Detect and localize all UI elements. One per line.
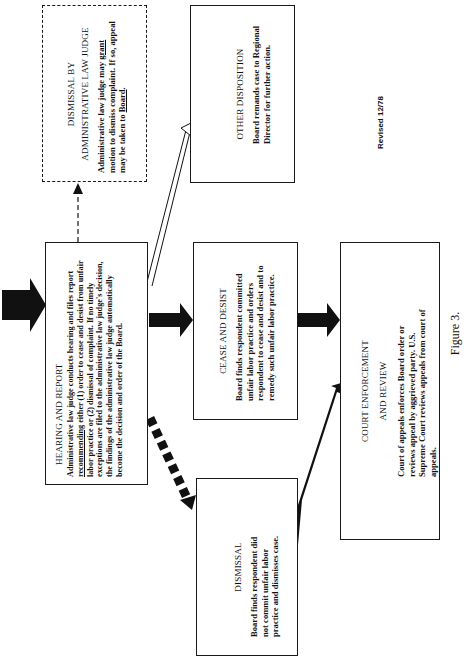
arrow-hearing-to-dismissal [150, 418, 196, 510]
arrow-cease-desist-to-court [298, 303, 340, 337]
court-enforcement-box: COURT ENFORCEMENT AND REVIEW Court of ap… [340, 242, 440, 540]
arrowhead-alj-dismissal [73, 183, 83, 194]
cease-desist-title: CEASE AND DESIST [218, 255, 228, 407]
alj-dismissal-board: Board [117, 89, 127, 112]
arrow-dismissal-to-court [298, 383, 342, 545]
dismissal-box: DISMISSAL Board finds respondent did not… [196, 478, 298, 656]
alj-dismissal-text: Administrative law judge may [96, 59, 106, 172]
dismissal-title: DISMISSAL [233, 491, 243, 643]
other-disposition-body: Board remands case to Regional Director … [251, 18, 272, 170]
other-disposition-box: OTHER DISPOSITION Board remands case to … [190, 5, 295, 183]
court-enforcement-body: Court of appeals enforces Board order or… [396, 255, 438, 527]
hearing-report-title: HEARING AND REPORT [54, 251, 64, 465]
alj-dismissal-body: Administrative law judge may grant motio… [96, 15, 128, 173]
hearing-report-body: Administrative law judge conducts hearin… [66, 251, 125, 477]
cease-desist-box: CEASE AND DESIST Board finds respondent … [193, 242, 298, 420]
alj-dismissal-box: DISMISSAL BY ADMINISTRATIVE LAW JUDGE Ad… [42, 5, 147, 182]
incoming-arrow [2, 278, 46, 332]
dismissal-body: Board finds respondent did not commit un… [249, 491, 281, 643]
hearing-report-box: HEARING AND REPORT Administrative law ju… [45, 242, 148, 485]
alj-dismissal-text-3: . [117, 87, 127, 89]
cease-desist-body: Board finds respondent committed unfair … [234, 255, 276, 407]
alj-dismissal-grant: grant [96, 39, 106, 59]
hearing-report-text: Administrative law judge conducts hearin… [66, 270, 75, 476]
arrow-hearing-to-cease-desist [149, 303, 193, 337]
revision-note: Revised 12/78 [376, 93, 385, 153]
alj-dismissal-title-1: DISMISSAL BY [66, 15, 76, 173]
hearing-report-recommending: recommending [75, 424, 84, 476]
alj-dismissal-title-2: ADMINISTRATIVE LAW JUDGE [80, 15, 90, 173]
court-enforcement-title-2: AND REVIEW [378, 255, 388, 527]
arrow-hearing-to-other-disposition [147, 122, 193, 286]
other-disposition-title: OTHER DISPOSITION [235, 18, 245, 170]
court-enforcement-title-1: COURT ENFORCEMENT [360, 255, 370, 527]
figure-caption: Figure 3. [448, 304, 463, 364]
